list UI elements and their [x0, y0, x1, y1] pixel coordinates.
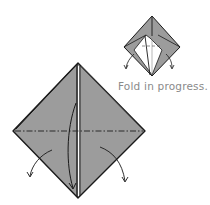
origami-diagram — [0, 0, 210, 205]
small-model — [124, 16, 180, 76]
step-caption: Fold in progress. — [118, 80, 208, 92]
